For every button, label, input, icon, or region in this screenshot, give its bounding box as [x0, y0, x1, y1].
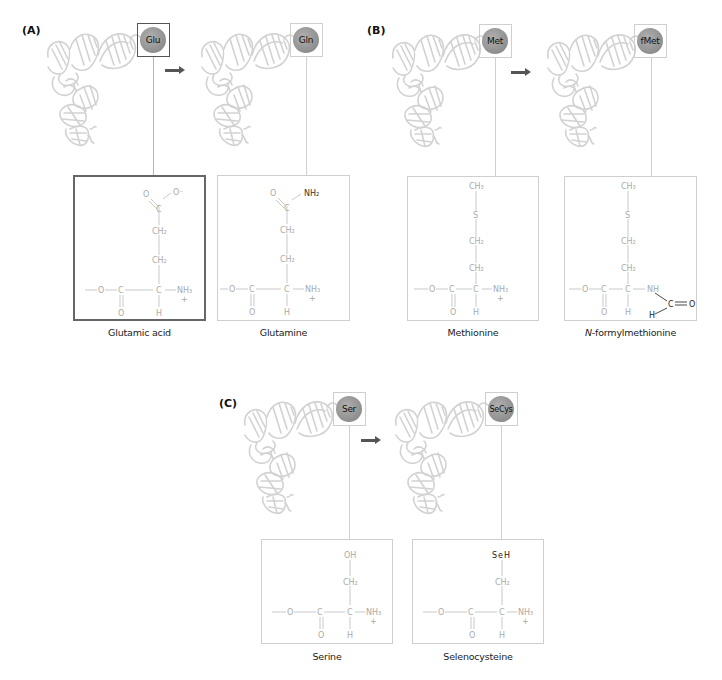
svg-text:+: +	[181, 295, 188, 304]
met-aa-ball: Met	[482, 28, 508, 54]
conversion-arrow-c	[361, 439, 376, 442]
atom-ch2: CH₂	[152, 227, 167, 236]
svg-text:NH₃: NH₃	[366, 608, 381, 617]
atom-formyl-h: H	[649, 311, 655, 320]
svg-text:+: +	[522, 617, 529, 626]
svg-text:CH₂: CH₂	[343, 578, 358, 587]
svg-text:NH₃: NH₃	[493, 285, 508, 294]
svg-text:C: C	[284, 204, 290, 213]
svg-text:C: C	[118, 286, 124, 295]
atom-seh: SeH	[492, 551, 511, 560]
svg-text:C: C	[156, 286, 162, 295]
svg-text:H: H	[347, 631, 353, 640]
panel-a-label: (A)	[22, 24, 41, 37]
glutamine-structure: O NH₂ C CH₂ CH₂ O C C NH₃ + O H	[217, 175, 350, 321]
svg-text:S: S	[625, 211, 630, 220]
svg-text:H: H	[156, 309, 162, 318]
svg-text:O: O	[249, 308, 255, 317]
panel-c-label: (C)	[219, 397, 237, 410]
svg-text:C: C	[249, 285, 255, 294]
svg-text:CH₃: CH₃	[469, 182, 484, 191]
svg-text:C: C	[499, 608, 505, 617]
glutamine-caption: Glutamine	[217, 327, 350, 338]
trna-gln-illustration	[194, 25, 304, 150]
fmet-aa-ball: fMet	[637, 28, 663, 54]
svg-text:S: S	[473, 211, 478, 220]
secys-connector-line	[501, 426, 502, 539]
secys-aa-ball: SeCys	[488, 396, 514, 422]
met-connector-line	[495, 58, 496, 176]
atom-o-minus: O⁻	[173, 188, 184, 197]
conversion-arrow-a	[165, 69, 180, 72]
gln-connector-line	[306, 57, 307, 175]
glutamic-acid-structure: O O⁻ C CH₂ CH₂ O C C NH₃ + O H	[73, 175, 206, 321]
atom-nh: NH	[647, 285, 659, 294]
glutamic-acid-caption: Glutamic acid	[73, 327, 206, 338]
svg-text:+: +	[497, 294, 504, 303]
gln-aa-ball: Gln	[293, 27, 319, 53]
atom-c: C	[156, 205, 162, 214]
svg-text:+: +	[370, 617, 377, 626]
svg-text:O: O	[469, 631, 475, 640]
svg-text:O: O	[229, 285, 235, 294]
serine-caption: Serine	[261, 651, 393, 662]
svg-text:O: O	[601, 308, 607, 317]
conversion-arrow-b	[511, 71, 526, 74]
svg-text:CH₂: CH₂	[280, 255, 295, 264]
svg-text:C: C	[347, 608, 353, 617]
svg-text:CH₂: CH₂	[621, 264, 636, 273]
methionine-caption: Methionine	[407, 327, 539, 338]
svg-text:CH₂: CH₂	[495, 578, 510, 587]
svg-text:O: O	[118, 309, 124, 318]
svg-text:CH₂: CH₂	[280, 226, 295, 235]
glu-connector-line	[153, 57, 154, 175]
svg-text:C: C	[449, 285, 455, 294]
glu-aa-ball: Glu	[140, 27, 166, 53]
svg-text:+: +	[309, 294, 316, 303]
atom-ch2: CH₂	[152, 256, 167, 265]
svg-text:H: H	[284, 308, 290, 317]
svg-text:O: O	[318, 631, 324, 640]
svg-text:C: C	[625, 285, 631, 294]
methionine-structure: CH₃ S CH₂ CH₂ O C C NH₃ + O H	[407, 176, 539, 321]
fmet-connector-line	[651, 58, 652, 176]
svg-text:O: O	[270, 189, 276, 198]
svg-text:C: C	[468, 608, 474, 617]
svg-text:CH₃: CH₃	[621, 182, 636, 191]
atom-o: O	[143, 190, 149, 199]
n-formylmethionine-caption: N-formylmethionine	[564, 327, 697, 338]
svg-text:CH₂: CH₂	[621, 237, 636, 246]
svg-text:CH₂: CH₂	[469, 237, 484, 246]
selenocysteine-caption: Selenocysteine	[412, 651, 544, 662]
svg-text:H: H	[625, 308, 631, 317]
svg-text:NH₃: NH₃	[305, 285, 320, 294]
svg-text:NH₃: NH₃	[518, 608, 533, 617]
svg-text:NH₃: NH₃	[177, 286, 192, 295]
svg-text:C: C	[317, 608, 323, 617]
atom-formyl-c: C	[668, 300, 674, 309]
trna-secys-illustration	[388, 393, 498, 518]
svg-text:O: O	[287, 608, 293, 617]
svg-text:O: O	[438, 608, 444, 617]
trna-ser-illustration	[237, 393, 347, 518]
svg-text:OH: OH	[344, 551, 356, 560]
ser-aa-ball: Ser	[336, 396, 362, 422]
svg-text:CH₂: CH₂	[469, 264, 484, 273]
svg-text:C: C	[473, 285, 479, 294]
svg-text:C: C	[284, 285, 290, 294]
atom-nh2: NH₂	[304, 189, 319, 198]
svg-text:O: O	[450, 308, 456, 317]
svg-text:H: H	[473, 308, 479, 317]
trna-glu-illustration	[40, 25, 150, 150]
n-formylmethionine-structure: CH₃ S CH₂ CH₂ O C C NH C O H O H	[564, 176, 697, 321]
svg-text:H: H	[499, 631, 505, 640]
panel-b-label: (B)	[367, 24, 385, 37]
atom-formyl-o: O	[689, 300, 695, 309]
svg-text:O: O	[98, 286, 104, 295]
ser-connector-line	[349, 426, 350, 539]
selenocysteine-structure: SeH CH₂ O C C NH₃ + O H	[412, 539, 544, 644]
svg-text:O: O	[582, 285, 588, 294]
svg-text:C: C	[601, 285, 607, 294]
svg-text:O: O	[429, 285, 435, 294]
serine-structure: OH CH₂ O C C NH₃ + O H	[261, 539, 393, 644]
